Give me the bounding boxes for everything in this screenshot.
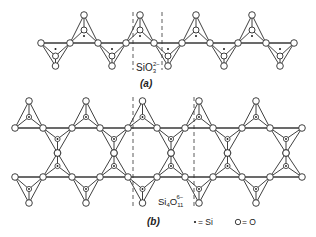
caption-a: (a) bbox=[140, 78, 153, 89]
legend-si-label: = Si bbox=[198, 217, 213, 227]
silicon-atom bbox=[223, 48, 225, 50]
sio4-tetrahedron bbox=[270, 150, 302, 177]
silicon-atom bbox=[227, 165, 229, 167]
oxygen-atom bbox=[224, 150, 231, 157]
silicon-atom bbox=[170, 165, 172, 167]
silicon-atom bbox=[255, 188, 257, 190]
oxygen-atom bbox=[125, 125, 132, 132]
oxygen-atom bbox=[193, 12, 200, 19]
oxygen-atom bbox=[210, 125, 217, 132]
silicate-chain-diagram: SiO32− (a) Si4O116− (b) = Si = O bbox=[0, 0, 316, 237]
bond-line bbox=[143, 101, 158, 128]
oxygen-atom bbox=[125, 174, 132, 181]
silicon-atom bbox=[28, 188, 30, 190]
oxygen-atom bbox=[210, 174, 217, 181]
oxygen-atom bbox=[299, 125, 306, 132]
legend-si-dot-icon bbox=[194, 221, 196, 223]
oxygen-atom bbox=[193, 27, 199, 33]
oxygen-atom bbox=[69, 174, 76, 181]
oxygen-atom bbox=[40, 125, 47, 132]
oxygen-atom bbox=[97, 125, 104, 132]
oxygen-atom bbox=[109, 63, 116, 70]
bond-line bbox=[256, 101, 270, 128]
oxygen-atom bbox=[137, 12, 144, 19]
sio4-tetrahedron bbox=[126, 12, 154, 43]
sio4-tetrahedron bbox=[213, 150, 242, 177]
sio4-tetrahedron bbox=[15, 98, 43, 128]
oxygen-atom bbox=[12, 174, 19, 181]
bond-line bbox=[15, 101, 29, 128]
silicon-atom bbox=[142, 116, 144, 118]
legend-o-circle-icon bbox=[235, 219, 240, 224]
oxygen-atom bbox=[123, 40, 130, 47]
oxygen-atom bbox=[38, 40, 45, 47]
silicon-atom bbox=[111, 48, 113, 50]
oxygen-atom bbox=[291, 40, 298, 47]
sio4-tetrahedron bbox=[128, 177, 157, 206]
oxygen-atom bbox=[267, 125, 274, 132]
silicon-atom bbox=[113, 138, 115, 140]
sio4-tetrahedron bbox=[157, 150, 185, 177]
oxygen-atom bbox=[83, 98, 90, 105]
single-chain-structure bbox=[38, 12, 298, 70]
silicon-atom bbox=[285, 138, 287, 140]
sio4-tetrahedron bbox=[43, 150, 72, 177]
bond-line bbox=[242, 101, 256, 128]
oxygen-atom bbox=[239, 174, 246, 181]
oxygen-atom bbox=[249, 12, 256, 19]
silicon-atom bbox=[139, 35, 141, 37]
oxygen-atom bbox=[253, 200, 260, 207]
silicon-atom bbox=[113, 165, 115, 167]
oxygen-atom bbox=[277, 53, 283, 59]
oxygen-atom bbox=[26, 98, 33, 105]
oxygen-atom bbox=[165, 53, 171, 59]
oxygen-atom bbox=[283, 150, 290, 157]
bond-line bbox=[199, 101, 213, 128]
bond-line bbox=[72, 101, 86, 128]
silicon-atom bbox=[83, 35, 85, 37]
silicon-atom bbox=[227, 138, 229, 140]
bond-line bbox=[29, 101, 43, 128]
oxygen-atom bbox=[235, 40, 242, 47]
oxygen-atom bbox=[40, 174, 47, 181]
silicon-atom bbox=[167, 48, 169, 50]
oxygen-atom bbox=[179, 40, 186, 47]
silicon-atom bbox=[285, 165, 287, 167]
oxygen-atom bbox=[81, 12, 88, 19]
oxygen-atom bbox=[139, 200, 146, 207]
silicon-atom bbox=[57, 165, 59, 167]
oxygen-atom bbox=[154, 174, 161, 181]
oxygen-atom bbox=[67, 40, 74, 47]
oxygen-atom bbox=[267, 174, 274, 181]
silicon-atom bbox=[85, 188, 87, 190]
oxygen-atom bbox=[239, 125, 246, 132]
sio4-tetrahedron bbox=[72, 177, 100, 206]
oxygen-atom bbox=[165, 63, 172, 70]
oxygen-atom bbox=[54, 150, 61, 157]
oxygen-atom bbox=[196, 98, 203, 105]
sio4-tetrahedron bbox=[15, 177, 43, 206]
sio4-tetrahedron bbox=[70, 12, 98, 43]
oxygen-atom bbox=[137, 27, 143, 33]
sio4-tetrahedron bbox=[100, 150, 128, 177]
silicon-atom bbox=[28, 116, 30, 118]
bond-line bbox=[185, 101, 199, 128]
caption-b: (b) bbox=[147, 216, 160, 227]
oxygen-atom bbox=[26, 200, 33, 207]
oxygen-atom bbox=[207, 40, 214, 47]
oxygen-atom bbox=[182, 174, 189, 181]
oxygen-atom bbox=[221, 63, 228, 70]
sio4-tetrahedron bbox=[185, 98, 213, 128]
silicon-atom bbox=[170, 138, 172, 140]
silicon-atom bbox=[57, 138, 59, 140]
oxygen-atom bbox=[97, 174, 104, 181]
oxygen-atom bbox=[83, 200, 90, 207]
oxygen-atom bbox=[221, 53, 227, 59]
silicon-atom bbox=[195, 35, 197, 37]
sio4-tetrahedron bbox=[242, 98, 270, 128]
oxygen-atom bbox=[182, 125, 189, 132]
silicon-atom bbox=[198, 116, 200, 118]
oxygen-atom bbox=[52, 63, 59, 70]
oxygen-atom bbox=[299, 174, 306, 181]
oxygen-atom bbox=[253, 98, 260, 105]
